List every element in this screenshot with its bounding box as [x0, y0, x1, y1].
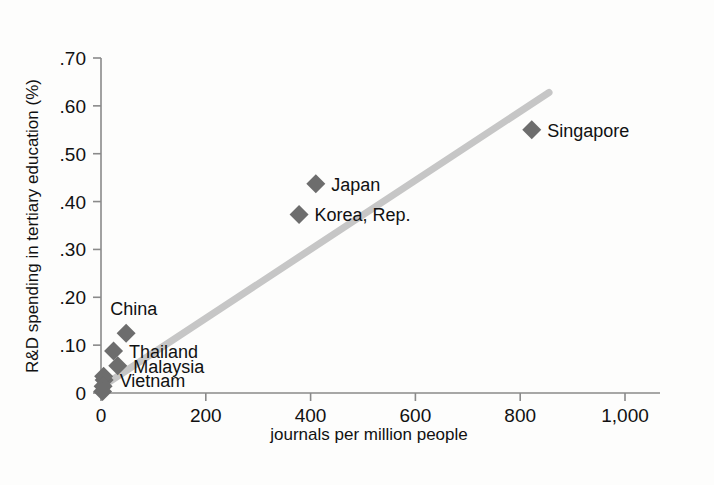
x-axis-title: journals per million people	[269, 425, 468, 444]
y-tick-label: .40	[60, 192, 86, 213]
x-tick-label: 400	[295, 405, 327, 426]
scatter-chart: 0.10.20.30.40.50.60.70 R&D spending in t…	[0, 0, 714, 485]
y-tick-labels: 0.10.20.30.40.50.60.70	[60, 48, 86, 404]
x-tick-marks	[101, 393, 625, 401]
y-tick-label: .10	[60, 335, 86, 356]
plot-area: 0.10.20.30.40.50.60.70 R&D spending in t…	[0, 0, 714, 485]
x-axis: 02004006008001,000 journals per million …	[96, 393, 660, 444]
data-point-korea-rep[interactable]	[290, 205, 309, 224]
y-tick-label: .30	[60, 239, 86, 260]
data-label-china: China	[110, 299, 158, 319]
x-tick-label: 800	[504, 405, 536, 426]
x-tick-label: 1,000	[601, 405, 649, 426]
data-label-korea-rep: Korea, Rep.	[315, 205, 411, 225]
y-tick-label: .60	[60, 96, 86, 117]
data-label-singapore: Singapore	[547, 121, 629, 141]
y-tick-marks	[93, 58, 101, 393]
y-axis: 0.10.20.30.40.50.60.70 R&D spending in t…	[23, 48, 101, 404]
data-label-japan: Japan	[331, 175, 380, 195]
data-point-china[interactable]	[117, 324, 136, 343]
data-point-thailand[interactable]	[104, 341, 123, 360]
y-tick-label: .50	[60, 144, 86, 165]
x-tick-label: 200	[190, 405, 222, 426]
data-label-group: SingaporeJapanKorea, Rep.ChinaThailandMa…	[110, 121, 629, 391]
x-tick-label: 0	[96, 405, 107, 426]
y-tick-label: .70	[60, 48, 86, 69]
data-label-vietnam: Vietnam	[120, 371, 186, 391]
x-tick-labels: 02004006008001,000	[96, 405, 649, 426]
y-tick-label: 0	[75, 383, 86, 404]
y-axis-title: R&D spending in tertiary education (%)	[23, 79, 42, 373]
data-point-singapore[interactable]	[522, 120, 541, 139]
data-point-japan[interactable]	[306, 174, 325, 193]
y-tick-label: .20	[60, 287, 86, 308]
x-tick-label: 600	[400, 405, 432, 426]
